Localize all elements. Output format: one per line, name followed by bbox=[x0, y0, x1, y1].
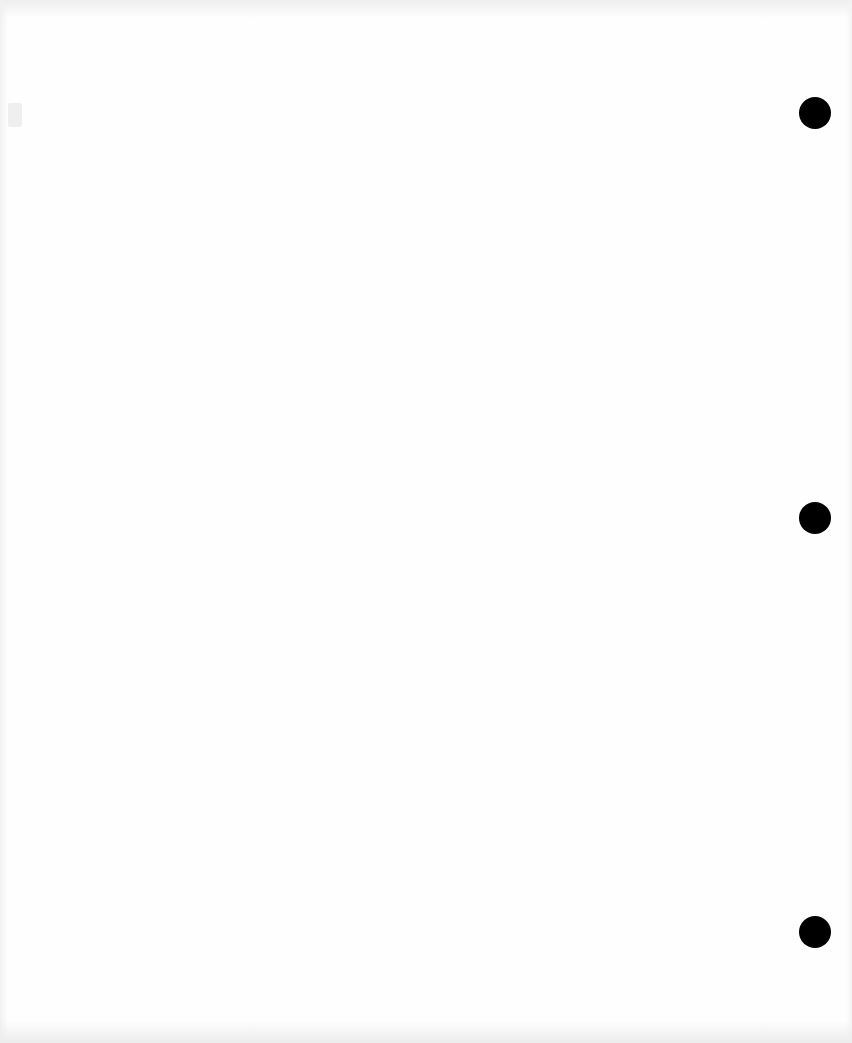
punch-hole-bottom bbox=[799, 916, 831, 948]
scan-smudge-mark bbox=[8, 103, 22, 127]
scan-top-edge-shading bbox=[0, 0, 852, 18]
scan-right-edge-shading bbox=[846, 0, 852, 1043]
scan-bottom-edge-shading bbox=[0, 1021, 852, 1043]
scan-left-edge-shading bbox=[0, 0, 8, 1043]
punch-hole-top bbox=[799, 97, 831, 129]
blank-document-page bbox=[0, 0, 852, 1043]
punch-hole-middle bbox=[799, 502, 831, 534]
